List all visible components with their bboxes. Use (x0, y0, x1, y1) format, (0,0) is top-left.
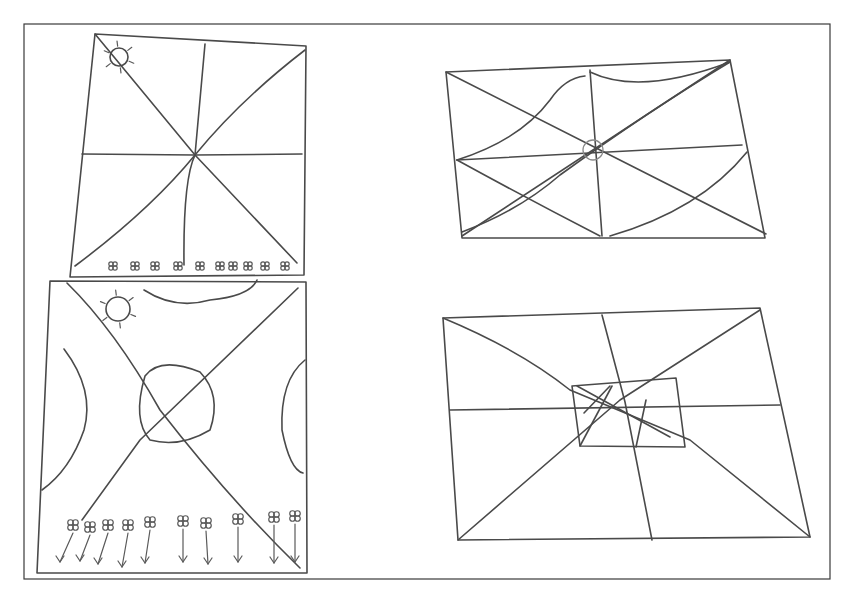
panel-bottom-right (443, 308, 810, 540)
flower-icon (201, 518, 212, 529)
panel-top-right (446, 60, 766, 238)
flower-icon (85, 522, 96, 533)
arrow-down-icon (141, 530, 150, 563)
sketch-canvas (0, 0, 849, 606)
sun-icon (100, 290, 135, 328)
arrow-down-icon (234, 527, 242, 562)
sketch-figure (0, 0, 849, 606)
sketch-line (602, 315, 652, 540)
flower-icon (290, 511, 301, 522)
flower-icon (196, 262, 204, 270)
flower-icon (233, 514, 244, 525)
sketch-line (195, 155, 297, 263)
arrow-down-icon (291, 524, 299, 562)
flower-icon (216, 262, 224, 270)
panel-bottom-left (37, 280, 307, 573)
sketch-line (82, 288, 298, 520)
sun-icon (104, 41, 133, 73)
panel-top-left (70, 34, 306, 277)
sketch-line (42, 349, 87, 490)
sketch-line (282, 360, 305, 473)
flower-icon (68, 520, 79, 531)
sketch-line (144, 280, 257, 303)
flower-icon (269, 512, 280, 523)
sketch-line (195, 44, 205, 155)
flower-icon (178, 516, 189, 527)
arrow-down-icon (56, 533, 73, 562)
flower-icon (174, 262, 182, 270)
sketch-line (184, 155, 195, 265)
sketch-line (195, 50, 305, 155)
panels-group (37, 34, 810, 573)
arrow-down-icon (179, 529, 187, 562)
arrow-down-icon (118, 533, 128, 567)
flower-icon (229, 262, 237, 270)
arrow-down-icon (204, 531, 212, 564)
flower-icon (123, 520, 134, 531)
flower-icon (151, 262, 159, 270)
sketch-line (580, 386, 612, 446)
sketch-line (195, 154, 302, 155)
panel-outline (446, 60, 765, 238)
sketch-line (75, 155, 195, 266)
flower-icon (281, 262, 289, 270)
flower-icon (145, 517, 156, 528)
flower-icon (261, 262, 269, 270)
sketch-line (82, 154, 195, 155)
flower-icon (103, 520, 114, 531)
sketch-line (95, 34, 195, 155)
arrow-down-icon (94, 533, 108, 564)
sketch-line (446, 72, 766, 234)
sketch-line (443, 318, 810, 537)
flower-icon (109, 262, 117, 270)
flower-icon (244, 262, 252, 270)
arrow-down-icon (76, 535, 90, 561)
flower-icon (131, 262, 139, 270)
outer-frame (24, 24, 830, 579)
sketch-line (457, 76, 585, 160)
sketch-line (584, 386, 610, 413)
